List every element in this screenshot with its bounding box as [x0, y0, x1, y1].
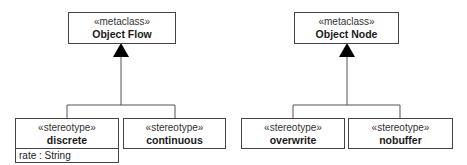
extension-connector-object-node [293, 105, 400, 118]
class-name: continuous [124, 134, 225, 147]
class-name: nobuffer [349, 134, 452, 147]
metaclass-object-flow[interactable]: «metaclass» Object Flow [68, 12, 176, 44]
extension-arrowhead-icon [113, 43, 129, 57]
stereotype-overwrite[interactable]: «stereotype» overwrite [241, 118, 345, 149]
extension-connector-object-flow [67, 105, 175, 118]
stereotype-label: «stereotype» [16, 122, 118, 134]
extension-arrowhead-icon [339, 43, 355, 57]
stereotype-label: «stereotype» [124, 122, 225, 134]
attribute-compartment: rate : String [16, 148, 118, 162]
stereotype-label: «metaclass» [295, 16, 398, 28]
metaclass-object-node[interactable]: «metaclass» Object Node [294, 12, 399, 44]
stereotype-label: «stereotype» [242, 122, 344, 134]
stereotype-discrete[interactable]: «stereotype» discrete rate : String [15, 118, 119, 163]
class-name: Object Flow [69, 28, 175, 41]
class-name: Object Node [295, 28, 398, 41]
class-name: overwrite [242, 134, 344, 147]
stereotype-continuous[interactable]: «stereotype» continuous [123, 118, 226, 149]
stereotype-nobuffer[interactable]: «stereotype» nobuffer [348, 118, 453, 149]
stereotype-label: «metaclass» [69, 16, 175, 28]
stereotype-label: «stereotype» [349, 122, 452, 134]
class-name: discrete [16, 134, 118, 147]
